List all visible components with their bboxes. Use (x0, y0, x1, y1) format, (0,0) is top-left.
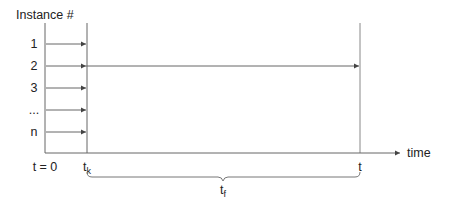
row-label: n (31, 125, 38, 139)
tick-t: t (358, 160, 362, 174)
row-label: 2 (31, 59, 38, 73)
row-label: 1 (31, 37, 38, 51)
row-label: 3 (31, 81, 38, 95)
brace-label: tf (220, 183, 226, 199)
row-2: 2 (31, 59, 359, 73)
row-n: n (31, 125, 86, 139)
y-axis-title: Instance # (16, 8, 74, 22)
row-ellipsis: ... (29, 103, 86, 117)
tick-origin: t = 0 (33, 160, 58, 174)
row-3: 3 (31, 81, 86, 95)
row-1: 1 (31, 37, 86, 51)
x-axis-label: time (407, 146, 431, 160)
timeline-diagram: Instance # time 1 2 3 ... n t = 0 tk t t… (0, 0, 451, 205)
row-label: ... (29, 103, 39, 117)
tf-brace (87, 172, 360, 181)
